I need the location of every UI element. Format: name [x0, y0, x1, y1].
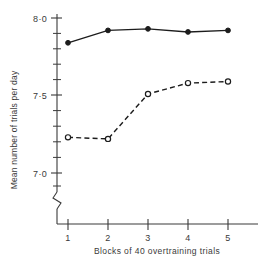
y-tick-label-7-5: 7·5: [33, 91, 47, 101]
axis-break-marker: [53, 192, 61, 209]
y-tick-label-8-0: 8·0: [33, 14, 47, 24]
data-point-marker: [66, 40, 71, 45]
data-point-marker: [106, 28, 111, 33]
chart-figure: 8·0 7·5 7·0 1 2 3 4 5 Blocks of 40 overt…: [0, 0, 266, 259]
y-axis-title: Mean number of trials per day: [9, 70, 19, 189]
line-chart-svg: 8·0 7·5 7·0 1 2 3 4 5 Blocks of 40 overt…: [0, 0, 266, 259]
y-tick-label-7-0: 7·0: [33, 169, 47, 179]
x-tick-label-3: 3: [145, 233, 150, 243]
series-line-dashed: [68, 82, 228, 139]
data-point-marker: [225, 79, 230, 84]
data-point-marker: [105, 136, 110, 141]
data-point-marker: [65, 135, 70, 140]
data-point-marker: [186, 30, 191, 35]
data-point-marker: [146, 26, 151, 31]
x-tick-label-5: 5: [225, 233, 230, 243]
data-point-marker: [145, 91, 150, 96]
x-axis-title: Blocks of 40 overtraining trials: [94, 246, 220, 256]
x-tick-label-2: 2: [105, 233, 110, 243]
data-point-marker: [185, 81, 190, 86]
series-markers-dashed: [65, 79, 230, 142]
x-tick-label-1: 1: [65, 233, 70, 243]
x-tick-label-4: 4: [185, 233, 190, 243]
data-point-marker: [226, 28, 231, 33]
